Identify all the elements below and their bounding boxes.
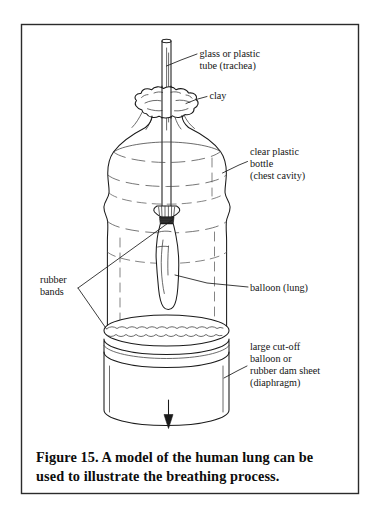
leader-balloon (175, 275, 248, 287)
clay-graphic (132, 86, 198, 130)
label-clay: clay (210, 90, 228, 101)
leader-diaphragm (224, 366, 247, 378)
downward-arrow-icon (164, 400, 173, 429)
label-bottle-line-1: clear plastic (250, 146, 299, 157)
label-rubber-bands: rubber bands (40, 274, 67, 297)
label-clay-line-1: clay (210, 90, 228, 101)
label-balloon-line-1: balloon (lung) (250, 282, 308, 294)
lung-model-diagram: glass or plastic tube (trachea) clay cle… (0, 0, 380, 525)
label-bottle-line-3: (chest cavity) (250, 170, 305, 182)
label-balloon-lung: balloon (lung) (250, 282, 308, 294)
label-diaphragm-line-4: (diaphragm) (250, 377, 300, 389)
label-diaphragm-line-3: rubber dam sheet (250, 365, 320, 376)
label-diaphragm-line-1: large cut-off (250, 341, 301, 352)
label-rubber-bands-line-2: bands (40, 286, 64, 297)
diaphragm-graphic (104, 315, 229, 426)
caption-line-2: used to illustrate the breathing process… (36, 468, 279, 484)
figure-caption: Figure 15. A model of the human lung can… (36, 449, 313, 484)
label-glass-or-plastic-tube: glass or plastic tube (trachea) (200, 48, 261, 72)
label-tube-line-1: glass or plastic (200, 48, 261, 59)
label-diaphragm: large cut-off balloon or rubber dam shee… (250, 341, 320, 389)
balloon-graphic (154, 206, 180, 310)
figure-panel: glass or plastic tube (trachea) clay cle… (0, 0, 380, 525)
label-tube-line-2: tube (trachea) (200, 60, 256, 72)
label-bottle-line-2: bottle (250, 158, 274, 169)
label-diaphragm-line-2: balloon or (250, 353, 292, 364)
label-clear-plastic-bottle: clear plastic bottle (chest cavity) (250, 146, 305, 182)
label-rubber-bands-line-1: rubber (40, 274, 67, 285)
leader-rubber-band-lower (78, 288, 107, 329)
caption-line-1: Figure 15. A model of the human lung can… (36, 449, 313, 465)
